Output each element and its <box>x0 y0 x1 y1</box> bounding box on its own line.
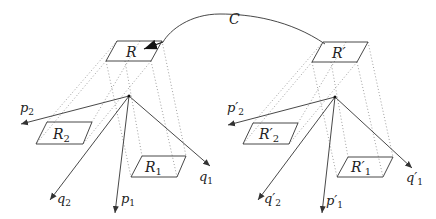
label-r2-prime: R′2 <box>258 126 279 144</box>
left-origin-point <box>128 95 131 98</box>
label-c: C <box>229 11 240 27</box>
label-p1: p1 <box>121 191 135 208</box>
label-q1: q1 <box>199 169 213 186</box>
label-r1: R1 <box>144 159 162 177</box>
diagram-canvas: C R R2 R1 p2 q2 p1 q1 R′ R′2 R′1 p′2 q′2… <box>0 0 436 219</box>
vector-q2-prime <box>258 97 335 200</box>
vector-q1 <box>129 96 210 166</box>
curve-c-arrow <box>144 42 163 49</box>
right-origin-point <box>334 96 337 99</box>
label-r1-prime: R′1 <box>350 159 371 177</box>
right-vectors <box>228 97 412 213</box>
label-r2: R2 <box>52 126 70 144</box>
label-q2: q2 <box>57 191 71 208</box>
label-p1-prime: p′1 <box>326 193 343 210</box>
vector-q2 <box>50 96 129 200</box>
label-p2: p2 <box>20 100 34 117</box>
label-p2-prime: p′2 <box>227 100 244 117</box>
vector-p2-prime <box>228 97 335 125</box>
label-q2-prime: q′2 <box>264 191 281 208</box>
curve-c <box>163 14 325 44</box>
label-r-prime: R′ <box>331 45 347 61</box>
label-q1-prime: q′1 <box>406 170 423 187</box>
vector-p2 <box>21 96 129 124</box>
diagram-svg: C R R2 R1 p2 q2 p1 q1 R′ R′2 R′1 p′2 q′2… <box>0 0 436 219</box>
left-vectors <box>21 96 210 213</box>
label-r: R <box>125 44 137 60</box>
